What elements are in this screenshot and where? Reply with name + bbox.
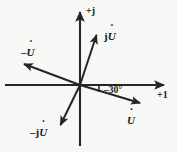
- phasor-diagram-figure: +j +1 jU –U U –jU –30°: [0, 0, 177, 152]
- vector-label-u: U: [127, 115, 135, 126]
- imaginary-axis-label: +j: [86, 6, 95, 16]
- vector-label-neg-ju-base: U: [39, 127, 47, 138]
- vector-label-neg-u-base: U: [27, 47, 35, 58]
- vector-label-neg-ju-prefix: –j: [30, 126, 39, 138]
- vector-label-ju: jU: [104, 31, 116, 42]
- vector-label-neg-u: –U: [21, 47, 34, 58]
- vector-label-u-base: U: [127, 115, 135, 126]
- real-axis-label: +1: [157, 90, 168, 100]
- vector-neg-u: [24, 64, 80, 85]
- vector-neg-ju: [61, 85, 81, 125]
- vector-ju: [80, 35, 97, 85]
- phasor-diagram-canvas: [0, 0, 177, 152]
- vector-label-ju-base: U: [108, 31, 116, 42]
- vector-label-neg-ju: –jU: [30, 127, 47, 138]
- angle-label: –30°: [104, 86, 122, 96]
